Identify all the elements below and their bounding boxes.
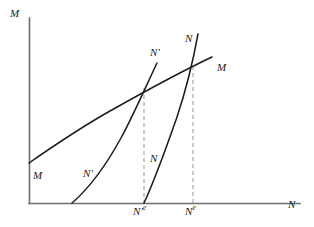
x-tick-label-n-e: Ne [185, 206, 196, 217]
n-curve-lower-label: N [150, 153, 158, 164]
n-prime-curve-lower-label: N' [83, 168, 93, 179]
x-tick-n-prime-e-base: N' [133, 205, 143, 217]
n-curve [144, 34, 198, 203]
n-curve-upper-label: N [185, 33, 193, 44]
m-curve [29, 57, 212, 163]
m-curve-end-label: M [217, 62, 226, 73]
x-tick-n-e-superscript: e [193, 203, 197, 212]
figure-diagram-container: M N M M N' N' N N N'e Ne [0, 0, 314, 227]
x-tick-label-n-prime-e: N'e [133, 206, 147, 217]
m-curve-start-label: M [33, 170, 42, 181]
x-tick-n-prime-e-superscript: e [143, 203, 147, 212]
x-axis-label: N [288, 199, 296, 210]
x-tick-n-e-base: N [185, 205, 193, 217]
diagram-canvas [0, 0, 314, 227]
n-prime-curve-upper-label: N' [150, 47, 160, 58]
y-axis-label: M [10, 8, 19, 19]
